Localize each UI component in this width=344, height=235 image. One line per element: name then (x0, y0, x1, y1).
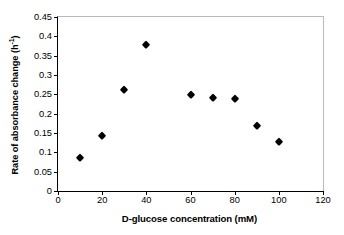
y-axis-tick (54, 56, 58, 57)
y-axis-tick (54, 94, 58, 95)
x-axis-tick-label: 100 (271, 195, 287, 205)
y-axis-title-text: Rate of absorbance change (h (10, 45, 20, 175)
x-axis-tick-label: 120 (315, 195, 331, 205)
y-axis-tick-label: 0.45 (34, 12, 52, 22)
y-axis-title-exponent: -1 (8, 39, 15, 45)
y-axis-tick-label: 0.35 (34, 51, 52, 61)
data-point-marker (252, 122, 261, 131)
data-point-marker (120, 86, 129, 95)
y-axis-title: Rate of absorbance change (h-1) (8, 10, 22, 200)
y-axis-tick (54, 114, 58, 115)
y-axis-tick (54, 36, 58, 37)
data-point-marker (76, 153, 85, 162)
x-axis-tick-label: 0 (55, 195, 60, 205)
y-axis-tick (54, 17, 58, 18)
y-axis-tick (54, 133, 58, 134)
y-axis-tick-label: 0.25 (34, 89, 52, 99)
y-axis-tick-label: 0.15 (34, 128, 52, 138)
y-axis-tick (54, 172, 58, 173)
y-axis-tick-label: 0 (47, 186, 52, 196)
x-axis-tick-label: 40 (141, 195, 151, 205)
y-axis-tick (54, 152, 58, 153)
y-axis-tick-label: 0.1 (39, 147, 52, 157)
data-point-marker (142, 40, 151, 49)
x-axis-tick-label: 60 (185, 195, 195, 205)
y-axis-tick-label: 0.05 (34, 167, 52, 177)
x-axis-title: D-glucose concentration (mM) (57, 213, 322, 224)
y-axis-tick-label: 0.2 (39, 109, 52, 119)
data-point-marker (208, 94, 217, 103)
plot-area: 00.050.10.150.20.250.30.350.40.450204060… (57, 16, 324, 192)
y-axis-title-suffix: ) (10, 36, 20, 39)
data-point-marker (274, 137, 283, 146)
x-axis-tick-label: 20 (97, 195, 107, 205)
x-axis-tick-label: 80 (229, 195, 239, 205)
y-axis-tick-label: 0.4 (39, 31, 52, 41)
data-point-marker (230, 94, 239, 103)
y-axis-tick (54, 75, 58, 76)
data-point-marker (98, 132, 107, 141)
chart-figure: Rate of absorbance change (h-1) 00.050.1… (0, 0, 344, 235)
data-point-marker (186, 91, 195, 100)
y-axis-tick-label: 0.3 (39, 70, 52, 80)
